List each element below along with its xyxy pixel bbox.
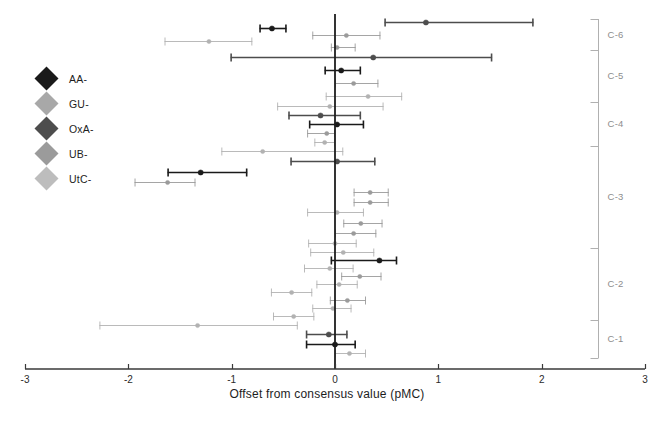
legend-item: UtC- <box>38 166 158 191</box>
group-label-c4: C-4 <box>608 118 624 129</box>
group-label-c6: C-6 <box>608 29 624 40</box>
x-tick-label: 2 <box>539 374 545 385</box>
legend-item-label: UtC- <box>69 173 91 185</box>
legend-item-label: GU- <box>69 98 89 110</box>
x-tick-label: 1 <box>436 374 442 385</box>
legend-item: OxA- <box>38 116 158 141</box>
legend-item: UB- <box>38 141 158 166</box>
group-label-c3: C-3 <box>608 191 624 202</box>
group-label-c1: C-1 <box>608 333 624 344</box>
x-tick-label: -2 <box>124 374 133 385</box>
legend-item: GU- <box>38 91 158 116</box>
legend-swatch-diamond-icon <box>34 91 58 115</box>
axis-layer <box>0 0 666 423</box>
legend-swatch-diamond-icon <box>34 66 58 90</box>
legend-item-label: UB- <box>69 148 88 160</box>
legend-item: AA- <box>38 66 158 91</box>
legend-swatch-diamond-icon <box>34 166 58 190</box>
x-tick-label: -1 <box>227 374 236 385</box>
x-tick-label: 0 <box>332 374 338 385</box>
x-axis-title: Offset from consensus value (pMC) <box>0 387 666 401</box>
legend-item-label: OxA- <box>69 123 94 135</box>
legend: AA- GU- OxA- UB- UtC- <box>38 66 158 191</box>
chart-root: AA- GU- OxA- UB- UtC- C-6 C-5 C-4 C-3 C-… <box>0 0 666 423</box>
legend-item-label: AA- <box>69 73 87 85</box>
group-label-c2: C-2 <box>608 278 624 289</box>
x-tick-label: -3 <box>21 374 30 385</box>
group-label-c5: C-5 <box>608 70 624 81</box>
forest-plot <box>0 0 666 423</box>
legend-swatch-diamond-icon <box>34 116 58 140</box>
legend-swatch-diamond-icon <box>34 141 58 165</box>
x-axis-title-text: Offset from consensus value (pMC) <box>229 387 424 401</box>
x-tick-label: 3 <box>642 374 648 385</box>
